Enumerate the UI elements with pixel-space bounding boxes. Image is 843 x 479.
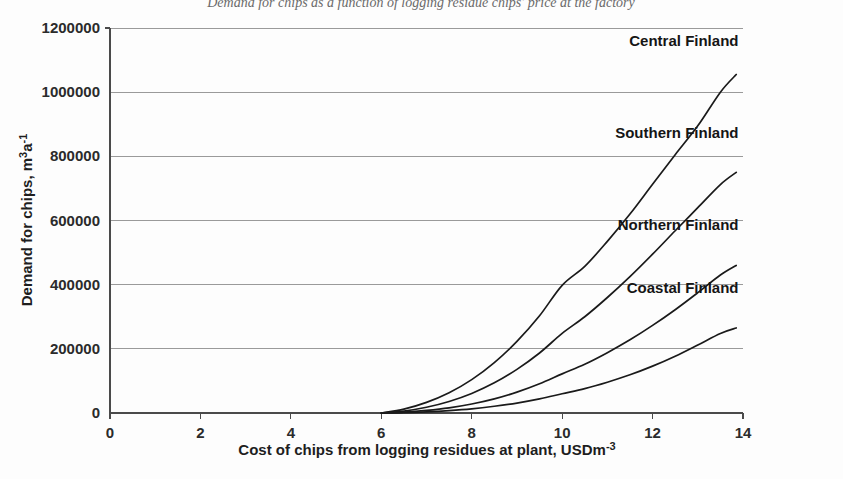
x-tick-label-2: 2: [196, 424, 204, 441]
series-label-southern-finland: Southern Finland: [615, 124, 738, 141]
chart-page: Demand for chips as a function of loggin…: [0, 0, 843, 479]
x-axis-tick-labels: 02468101214: [106, 424, 752, 441]
x-axis-title: Cost of chips from logging residues at p…: [238, 440, 615, 458]
x-tick-label-10: 10: [554, 424, 571, 441]
x-tick-label-6: 6: [377, 424, 385, 441]
demand-for-chips-chart: Demand for chips as a function of loggin…: [0, 0, 843, 479]
series-labels: Central FinlandSouthern FinlandNorthern …: [615, 32, 738, 296]
y-tick-label-1200000: 1200000: [42, 19, 100, 36]
y-axis-title: Demand for chips, m3a-1: [17, 134, 35, 307]
y-tick-label-800000: 800000: [50, 147, 100, 164]
y-axis-tick-labels: 020000040000060000080000010000001200000: [42, 19, 100, 421]
y-axis-title-sup-neg1: -1: [17, 134, 29, 144]
y-tick-label-200000: 200000: [50, 340, 100, 357]
x-axis-title-main: Cost of chips from logging residues at p…: [238, 441, 606, 458]
x-tick-label-8: 8: [468, 424, 476, 441]
y-tick-label-1000000: 1000000: [42, 83, 100, 100]
y-axis-title-main: Demand for chips, m: [18, 158, 35, 306]
chart-title: Demand for chips as a function of loggin…: [206, 0, 635, 10]
y-tick-label-400000: 400000: [50, 276, 100, 293]
x-tick-label-14: 14: [735, 424, 752, 441]
series-label-central-finland: Central Finland: [629, 32, 738, 49]
gridlines: [110, 28, 743, 349]
x-tick-label-12: 12: [644, 424, 661, 441]
x-axis-title-exponent: -3: [606, 440, 616, 452]
series-label-coastal-finland: Coastal Finland: [627, 279, 739, 296]
x-tick-label-0: 0: [106, 424, 114, 441]
series-label-northern-finland: Northern Finland: [618, 216, 739, 233]
x-tick-label-4: 4: [287, 424, 296, 441]
y-tick-label-600000: 600000: [50, 212, 100, 229]
y-tick-label-0: 0: [92, 404, 100, 421]
